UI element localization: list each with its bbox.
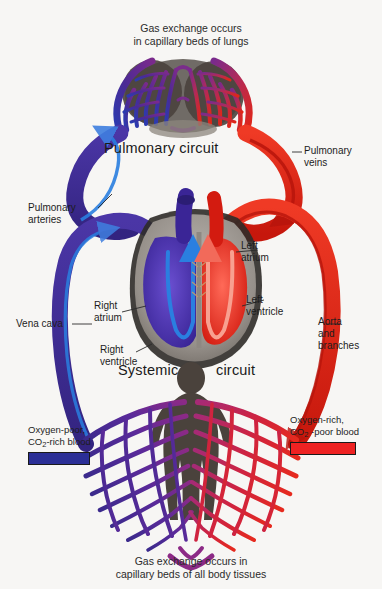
systemic-circuit-label-left: Systemic xyxy=(118,362,178,378)
legend-deoxygenated-line2: CO2-rich blood xyxy=(28,436,91,449)
circulatory-system-diagram xyxy=(0,0,382,589)
pulmonary-arteries-label: Pulmonary arteries xyxy=(28,202,76,226)
legend-oxygenated: Oxygen-rich, CO2 -poor blood xyxy=(290,414,359,455)
left-ventricle-label: Left ventricle xyxy=(246,294,283,318)
legend-oxygenated-line2: CO2 -poor blood xyxy=(290,426,359,439)
lung-capillary-bed xyxy=(117,59,249,138)
systemic-circuit-label-right: circuit xyxy=(216,362,255,378)
top-caption: Gas exchange occurs in capillary beds of… xyxy=(0,22,382,48)
aorta-label: Aorta and branches xyxy=(318,316,359,352)
legend-deoxygenated-swatch xyxy=(28,452,90,465)
right-atrium-label: Right atrium xyxy=(94,300,122,324)
top-caption-line1: Gas exchange occurs xyxy=(140,22,242,34)
legend-deoxygenated: Oxygen-poor, CO2-rich blood xyxy=(28,424,91,465)
vena-cava-label: Vena cava xyxy=(16,318,63,330)
top-caption-line2: in capillary beds of lungs xyxy=(134,35,249,47)
legend-deoxygenated-line1: Oxygen-poor, xyxy=(28,424,91,436)
bottom-caption-line1: Gas exchange occurs in xyxy=(135,555,248,567)
pulmonary-veins-label: Pulmonary veins xyxy=(304,145,352,169)
left-atrium-label: Left atrium xyxy=(241,240,269,264)
pulmonary-circuit-label: Pulmonary circuit xyxy=(104,140,219,156)
legend-oxygenated-swatch xyxy=(290,442,356,455)
legend-oxygenated-line1: Oxygen-rich, xyxy=(290,414,359,426)
bottom-caption: Gas exchange occurs in capillary beds of… xyxy=(0,555,382,581)
bottom-caption-line2: capillary beds of all body tissues xyxy=(116,568,267,580)
